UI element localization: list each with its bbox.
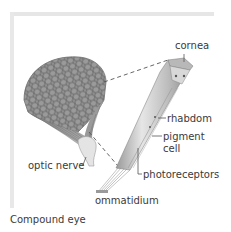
label-cornea: cornea (175, 40, 209, 51)
label-optic-nerve: optic nerve (28, 160, 85, 171)
label-ommatidium: ommatidium (95, 195, 159, 206)
label-pigment: pigment (163, 131, 205, 142)
eye-hemisphere (24, 57, 106, 166)
figure-caption: Compound eye (10, 214, 86, 225)
label-rhabdom: rhabdom (167, 113, 212, 124)
label-photoreceptors: photoreceptors (143, 169, 219, 180)
label-cell: cell (163, 143, 180, 154)
